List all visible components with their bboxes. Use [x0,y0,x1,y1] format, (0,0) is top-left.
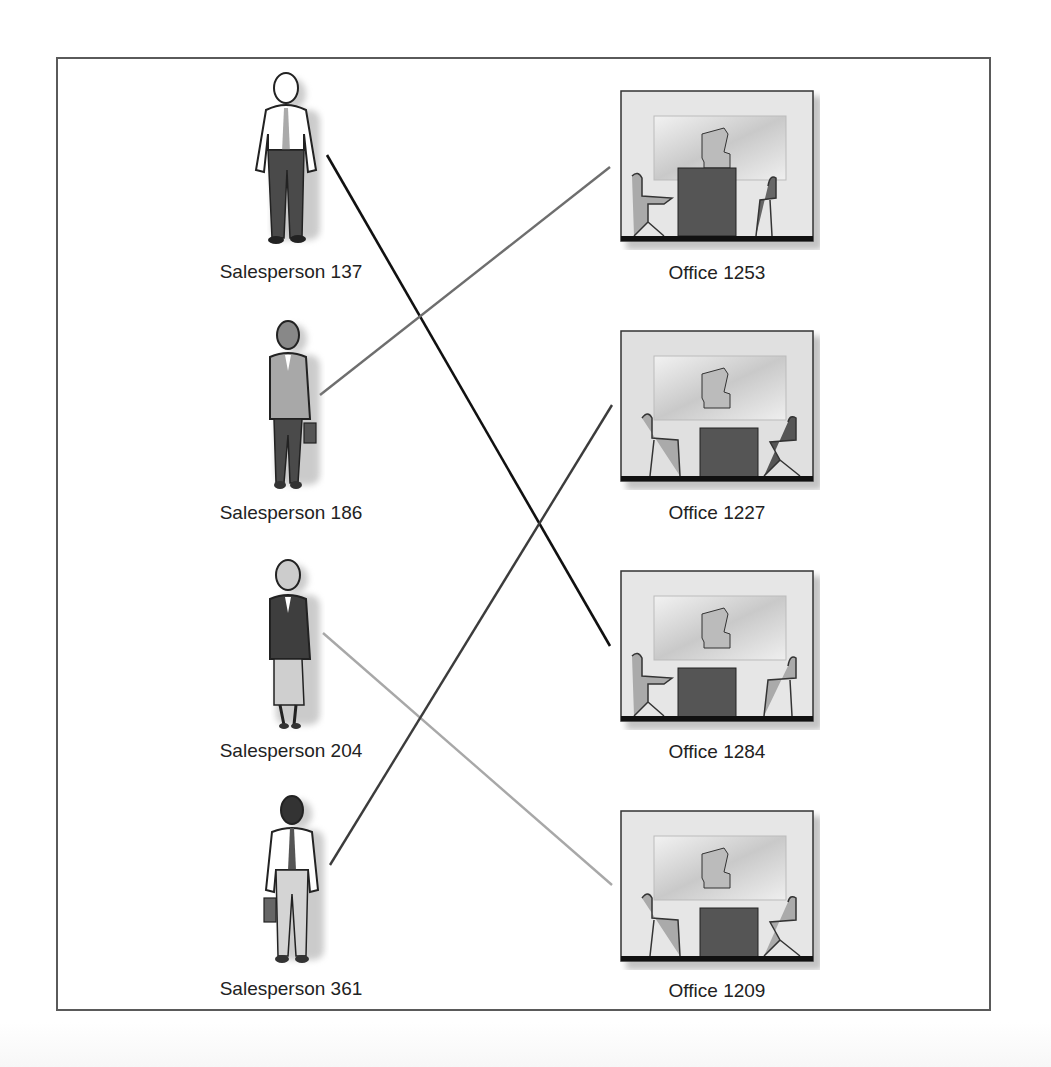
office-1253-icon [620,90,820,250]
salesperson-204-figure-icon [240,555,360,735]
salesperson-label: Salesperson 204 [191,740,391,762]
salesperson-label: Salesperson 186 [191,502,391,524]
salesperson-label: Salesperson 361 [191,978,391,1000]
salesperson-137-figure-icon [232,70,352,250]
salesperson-361-figure-icon [240,790,360,970]
office-label: Office 1253 [617,262,817,284]
salesperson-186-figure-icon [240,315,360,495]
office-label: Office 1284 [617,741,817,763]
salesperson-label: Salesperson 137 [191,261,391,283]
office-label: Office 1209 [617,980,817,1002]
diagram-frame [56,57,991,1011]
office-1227-icon [620,330,820,490]
office-1209-icon [620,810,820,970]
office-1284-icon [620,570,820,730]
page-bottom-margin [0,1022,1051,1067]
office-label: Office 1227 [617,502,817,524]
